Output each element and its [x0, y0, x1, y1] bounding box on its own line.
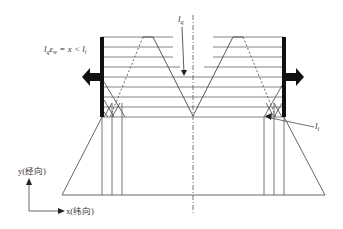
right-pointer-label: li	[315, 121, 320, 132]
y-axis-label: y(经向)	[18, 166, 46, 176]
horizontal-lines-right	[193, 37, 284, 117]
trapezoid-outline	[62, 117, 325, 195]
horizontal-lines-left	[102, 37, 193, 117]
right-clamp-bar	[282, 37, 286, 117]
coordinate-axes	[26, 178, 65, 214]
left-clamp-bar	[100, 37, 104, 117]
right-li-pointer	[265, 113, 314, 127]
formula-label: lqεw = x < li	[44, 44, 87, 55]
center-lq-arrow	[181, 27, 187, 76]
x-axis-label: x(纬向)	[66, 206, 94, 216]
fabric-strain-diagram: lq li lqεw = x < li y(经向) x(纬向)	[0, 0, 343, 229]
center-arrow-label: lq	[178, 14, 184, 25]
left-pull-arrow-icon	[82, 68, 100, 86]
right-pull-arrow-icon	[286, 68, 304, 86]
